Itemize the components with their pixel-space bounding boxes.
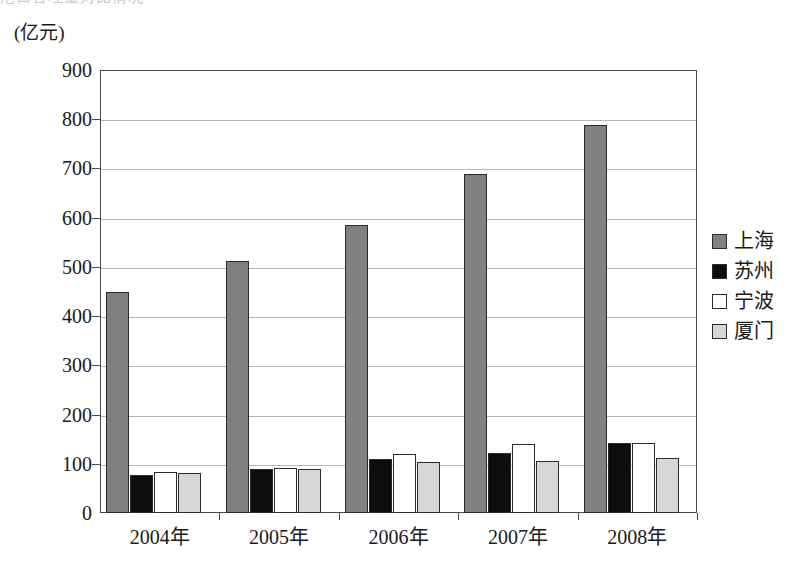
bar-厦门-2008年 bbox=[656, 458, 679, 513]
bar-上海-2005年 bbox=[226, 261, 249, 513]
bar-上海-2006年 bbox=[345, 225, 368, 513]
x-axis-tick-mark bbox=[339, 513, 340, 520]
legend-swatch-icon bbox=[712, 234, 727, 249]
y-axis-tick-mark bbox=[92, 464, 100, 465]
y-axis-tick-label: 100 bbox=[12, 454, 92, 474]
y-axis-tick-label: 300 bbox=[12, 355, 92, 375]
legend-swatch-icon bbox=[712, 324, 727, 339]
x-axis-tick-label: 2004年 bbox=[95, 525, 225, 549]
bar-宁波-2008年 bbox=[632, 443, 655, 513]
y-axis-tick-label: 700 bbox=[12, 158, 92, 178]
legend-item-上海[interactable]: 上海 bbox=[712, 226, 774, 256]
bar-厦门-2007年 bbox=[536, 461, 559, 513]
bar-上海-2007年 bbox=[464, 174, 487, 513]
gridline bbox=[101, 120, 696, 121]
x-axis-tick-mark bbox=[697, 513, 698, 520]
legend-item-宁波[interactable]: 宁波 bbox=[712, 286, 774, 316]
bar-苏州-2004年 bbox=[130, 475, 153, 513]
legend-swatch-icon bbox=[712, 294, 727, 309]
y-axis-tick-mark bbox=[92, 365, 100, 366]
bar-宁波-2005年 bbox=[274, 468, 297, 513]
y-axis-tick-label: 400 bbox=[12, 306, 92, 326]
y-axis-tick-label: 200 bbox=[12, 405, 92, 425]
bar-上海-2004年 bbox=[106, 292, 129, 514]
bar-苏州-2006年 bbox=[369, 459, 392, 513]
legend-swatch-icon bbox=[712, 264, 727, 279]
x-axis-tick-label: 2006年 bbox=[334, 525, 464, 549]
legend-item-label: 苏州 bbox=[734, 261, 774, 281]
bar-厦门-2005年 bbox=[298, 469, 321, 513]
bar-上海-2008年 bbox=[584, 125, 607, 513]
y-axis-tick-mark bbox=[92, 415, 100, 416]
y-axis-tick-mark bbox=[92, 119, 100, 120]
bar-苏州-2005年 bbox=[250, 469, 273, 513]
y-axis-tick-label: 500 bbox=[12, 257, 92, 277]
x-axis-tick-label: 2008年 bbox=[572, 525, 702, 549]
x-axis-tick-mark bbox=[578, 513, 579, 520]
y-axis-tick-label: 900 bbox=[12, 60, 92, 80]
legend-item-label: 上海 bbox=[734, 231, 774, 251]
bar-厦门-2006年 bbox=[417, 462, 440, 513]
legend-item-label: 厦门 bbox=[734, 321, 774, 341]
bar-苏州-2008年 bbox=[608, 443, 631, 513]
bar-宁波-2004年 bbox=[154, 472, 177, 513]
x-axis-tick-label: 2007年 bbox=[453, 525, 583, 549]
y-axis-tick-label: 600 bbox=[12, 208, 92, 228]
x-axis-tick-mark bbox=[219, 513, 220, 520]
bar-宁波-2006年 bbox=[393, 454, 416, 513]
bar-苏州-2007年 bbox=[488, 453, 511, 513]
chart-legend: 上海苏州宁波厦门 bbox=[712, 226, 774, 346]
y-axis-tick-mark bbox=[92, 316, 100, 317]
bar-厦门-2004年 bbox=[178, 473, 201, 513]
x-axis-tick-mark bbox=[458, 513, 459, 520]
y-axis-tick-label: 800 bbox=[12, 109, 92, 129]
legend-item-厦门[interactable]: 厦门 bbox=[712, 316, 774, 346]
y-axis-tick-mark bbox=[92, 267, 100, 268]
x-axis-tick-label: 2005年 bbox=[214, 525, 344, 549]
legend-item-label: 宁波 bbox=[734, 291, 774, 311]
bar-宁波-2007年 bbox=[512, 444, 535, 513]
y-axis-tick-mark bbox=[92, 168, 100, 169]
y-axis-tick-mark bbox=[92, 218, 100, 219]
y-axis-tick-label: 0 bbox=[12, 503, 92, 523]
bar-chart: 90080070060050040030020010002004年2005年20… bbox=[0, 0, 808, 586]
legend-item-苏州[interactable]: 苏州 bbox=[712, 256, 774, 286]
